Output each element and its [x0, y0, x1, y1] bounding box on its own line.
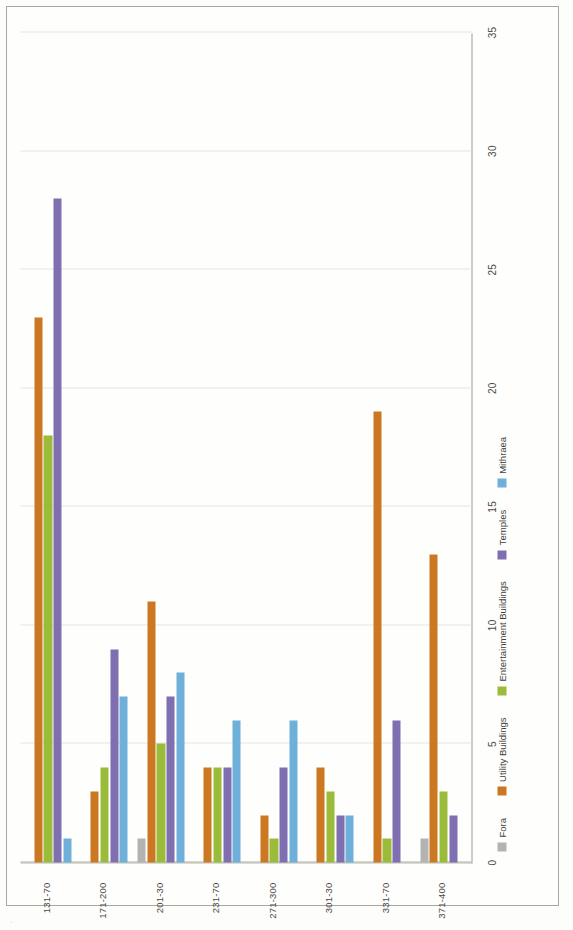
category-label: 301-30: [322, 882, 333, 913]
bar-entertainment-buildings: [100, 767, 108, 862]
bar-group: 201-30: [137, 32, 186, 862]
bar-fill: [269, 838, 277, 862]
bar-utility-buildings: [316, 767, 324, 862]
legend-label: Temples: [496, 509, 507, 544]
bar-fill: [147, 601, 155, 862]
bar-temples: [53, 198, 61, 862]
legend-label: Utility Buildings: [496, 717, 507, 781]
bar-fill: [63, 838, 71, 862]
bar-mithraea: [345, 815, 353, 862]
bar-entertainment-buildings: [43, 435, 51, 862]
bar-fill: [137, 838, 145, 862]
bar-fill: [326, 791, 334, 862]
bar-temples: [392, 720, 400, 862]
bar-fill: [90, 791, 98, 862]
bar-temples: [279, 767, 287, 862]
legend-swatch-icon: [497, 478, 506, 487]
bar-utility-buildings: [34, 317, 42, 862]
bar-fora: [420, 838, 428, 862]
bar-fill: [289, 720, 297, 862]
bar-fill: [34, 317, 42, 862]
bar-fill: [203, 767, 211, 862]
bar-temples: [110, 649, 118, 862]
bar-fill: [316, 767, 324, 862]
bar-mithraea: [119, 696, 127, 862]
legend-item: Utility Buildings: [496, 717, 507, 795]
bar-temples: [336, 815, 344, 862]
bar-temples: [449, 815, 457, 862]
axis-tick-label: 5: [486, 741, 497, 747]
bar-fill: [232, 720, 240, 862]
bar-fill: [260, 815, 268, 862]
scan-corner-mark: ·: [10, 919, 12, 926]
bar-fill: [166, 696, 174, 862]
bar-entertainment-buildings: [439, 791, 447, 862]
bar-fill: [279, 767, 287, 862]
screenshot-page: 05101520253035 131-70171-200201-30231-70…: [0, 0, 573, 930]
bar-fora: [137, 838, 145, 862]
bar-fill: [176, 672, 184, 862]
bar-fill: [119, 696, 127, 862]
bar-group: 331-70: [363, 32, 412, 862]
bar-mithraea: [63, 838, 71, 862]
legend-label: Mithraea: [496, 436, 507, 473]
legend-swatch-icon: [497, 842, 506, 851]
bar-fill: [373, 411, 381, 862]
bar-entertainment-buildings: [326, 791, 334, 862]
bar-fill: [156, 743, 164, 862]
axis-tick-label: 0: [486, 859, 497, 865]
legend-item: Mithraea: [496, 436, 507, 487]
chart-legend: ForaUtility BuildingsEntertainment Build…: [496, 436, 507, 851]
bar-group: 301-30: [307, 32, 356, 862]
legend-item: Temples: [496, 509, 507, 558]
legend-label: Entertainment Buildings: [496, 581, 507, 681]
bar-temples: [223, 767, 231, 862]
bar-fill: [100, 767, 108, 862]
axis-tick-label: 30: [486, 145, 497, 157]
legend-item: Entertainment Buildings: [496, 581, 507, 695]
bar-fill: [43, 435, 51, 862]
legend-swatch-icon: [497, 786, 506, 795]
bar-fill: [223, 767, 231, 862]
axis-tick-label: 35: [486, 26, 497, 38]
legend-label: Fora: [496, 817, 507, 837]
bar-utility-buildings: [373, 411, 381, 862]
bar-utility-buildings: [260, 815, 268, 862]
category-label: 371-400: [435, 882, 446, 918]
bar-temples: [166, 696, 174, 862]
bar-group: 171-200: [81, 32, 130, 862]
bar-mithraea: [176, 672, 184, 862]
bar-entertainment-buildings: [213, 767, 221, 862]
bar-entertainment-buildings: [382, 838, 390, 862]
bar-mithraea: [232, 720, 240, 862]
category-label: 331-70: [379, 882, 390, 913]
bar-fill: [429, 554, 437, 862]
category-label: 131-70: [40, 882, 51, 913]
bar-fill: [439, 791, 447, 862]
axis-tick-label: 20: [486, 382, 497, 394]
bar-utility-buildings: [147, 601, 155, 862]
chart-plot-area: 05101520253035 131-70171-200201-30231-70…: [20, 33, 472, 863]
bar-group: 371-400: [420, 32, 469, 862]
bar-fill: [420, 838, 428, 862]
bar-entertainment-buildings: [156, 743, 164, 862]
bar-utility-buildings: [203, 767, 211, 862]
bar-entertainment-buildings: [269, 838, 277, 862]
legend-swatch-icon: [497, 550, 506, 559]
bar-group: 271-300: [250, 32, 299, 862]
category-label: 171-200: [96, 882, 107, 918]
bar-fill: [53, 198, 61, 862]
axis-tick-label: 15: [486, 500, 497, 512]
bar-fill: [382, 838, 390, 862]
bar-group: 231-70: [194, 32, 243, 862]
category-label: 271-300: [266, 882, 277, 918]
bar-mithraea: [289, 720, 297, 862]
bar-fill: [345, 815, 353, 862]
bar-group: 131-70: [24, 32, 73, 862]
bar-fill: [213, 767, 221, 862]
axis-tick-label: 10: [486, 619, 497, 631]
bar-fill: [449, 815, 457, 862]
legend-swatch-icon: [497, 686, 506, 695]
bar-fill: [336, 815, 344, 862]
bar-fill: [110, 649, 118, 862]
